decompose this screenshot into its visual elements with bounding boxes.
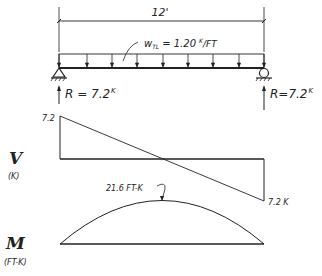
beam-diagram-canvas: 12' wTL= 1.20K/FT bbox=[0, 0, 322, 276]
load-unit-ft: /FT bbox=[202, 39, 218, 49]
moment-diagram: 21.6 FT-K M (FT-K) bbox=[4, 184, 264, 267]
right-reaction: R=7.2K bbox=[262, 85, 314, 110]
span-label: 12' bbox=[151, 6, 168, 19]
moment-symbol: M bbox=[5, 233, 26, 253]
svg-text:wTL= 1.20K/FT: wTL= 1.20K/FT bbox=[144, 37, 218, 50]
shear-symbol: V bbox=[9, 148, 24, 168]
roller-support-icon bbox=[256, 69, 272, 82]
arrow-up-icon bbox=[262, 85, 266, 91]
moment-unit: (FT-K) bbox=[4, 258, 27, 267]
load-subscript: TL bbox=[152, 43, 159, 50]
pin-support-icon bbox=[51, 68, 67, 81]
arrow-up-icon bbox=[57, 85, 61, 91]
moment-max-label: 21.6 FT-K bbox=[106, 184, 144, 193]
right-reaction-label: R=7.2 bbox=[270, 87, 307, 101]
svg-text:R=7.2K: R=7.2K bbox=[270, 87, 314, 101]
distributed-load: wTL= 1.20K/FT bbox=[58, 37, 266, 68]
right-reaction-unit: K bbox=[308, 87, 314, 95]
shear-max-label: 7.2 bbox=[42, 114, 55, 123]
load-value: = 1.20 bbox=[162, 38, 196, 49]
load-arrows-icon bbox=[58, 54, 266, 67]
shear-diagram: 7.2 7.2 K V (K) bbox=[8, 114, 289, 207]
left-reaction-unit: K bbox=[111, 87, 117, 95]
svg-text:R = 7.2K: R = 7.2K bbox=[65, 87, 117, 101]
shear-unit: (K) bbox=[8, 172, 20, 181]
shear-min-label: 7.2 K bbox=[268, 198, 289, 207]
leader-line bbox=[123, 42, 138, 61]
left-reaction-label: R = 7.2 bbox=[65, 87, 110, 101]
left-reaction: R = 7.2K bbox=[57, 85, 117, 104]
